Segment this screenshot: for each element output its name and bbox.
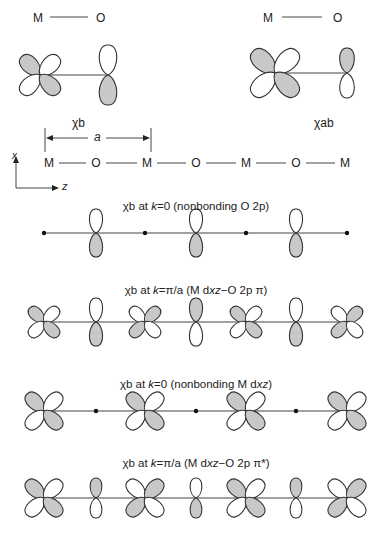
d-orbital-lobe bbox=[227, 497, 247, 517]
p-orbital-lobe bbox=[340, 48, 355, 73]
p-orbital-lobe bbox=[190, 498, 202, 518]
lattice-point-dot bbox=[345, 231, 349, 235]
d-orbital-lobe bbox=[245, 410, 265, 430]
d-orbital-lobe bbox=[43, 410, 63, 430]
p-orbital-lobe bbox=[89, 298, 102, 322]
d-orbital-lobe bbox=[346, 306, 362, 322]
chi-ab-label: χab bbox=[314, 116, 334, 130]
d-orbital-lobe bbox=[144, 497, 164, 517]
d-orbital-lobe bbox=[250, 72, 276, 98]
d-orbital-lobe bbox=[39, 54, 60, 75]
d-orbital-lobe bbox=[346, 479, 366, 499]
caption-xz: xz bbox=[209, 284, 221, 296]
caption-text: =0 (nonbonding O 2p) bbox=[157, 200, 269, 212]
p-orbital-lobe bbox=[90, 478, 102, 498]
d-orbital-lobe bbox=[227, 479, 247, 499]
d-orbital-lobe bbox=[230, 306, 246, 322]
p-orbital-lobe bbox=[289, 322, 302, 346]
p-orbital-lobe bbox=[289, 298, 302, 322]
caption-text: −O 2p π*) bbox=[219, 457, 270, 469]
top-right-o-label: O bbox=[333, 11, 342, 25]
chain-atom-o: O bbox=[91, 156, 100, 170]
d-orbital-lobe bbox=[346, 321, 362, 337]
d-orbital-lobe bbox=[274, 72, 300, 98]
d-orbital-lobe bbox=[346, 497, 366, 517]
d-orbital-lobe bbox=[126, 392, 146, 412]
diagram-canvas bbox=[0, 0, 380, 533]
lattice-point-dot bbox=[42, 231, 46, 235]
caption-text: χb at bbox=[120, 378, 148, 390]
d-orbital-lobe bbox=[43, 306, 59, 322]
d-orbital-lobe bbox=[144, 392, 164, 412]
lattice-point-dot bbox=[143, 231, 147, 235]
d-orbital-lobe bbox=[328, 410, 348, 430]
top-right-m-label: M bbox=[263, 11, 273, 25]
chain-atom-o: O bbox=[191, 156, 200, 170]
d-orbital-lobe bbox=[129, 321, 145, 337]
caption-row-3: χb at k=0 (nonbonding M dxz) bbox=[120, 378, 272, 390]
d-orbital-lobe bbox=[328, 392, 348, 412]
p-orbital-lobe bbox=[289, 233, 302, 257]
d-orbital-lobe bbox=[144, 410, 164, 430]
lattice-point-dot bbox=[294, 409, 298, 413]
caption-text: =0 (nonbonding M d bbox=[154, 378, 257, 390]
chain-atom-m: M bbox=[340, 156, 350, 170]
p-orbital-lobe bbox=[289, 209, 302, 233]
lattice-point-dot bbox=[244, 231, 248, 235]
p-orbital-lobe bbox=[290, 498, 302, 518]
lattice-point-dot bbox=[94, 409, 98, 413]
d-orbital-lobe bbox=[245, 321, 261, 337]
d-orbital-lobe bbox=[19, 54, 40, 75]
d-orbital-lobe bbox=[28, 321, 44, 337]
p-orbital-lobe bbox=[90, 498, 102, 518]
caption-row-4: χb at k=π/a (M dxz−O 2p π*) bbox=[122, 457, 269, 469]
p-orbital-lobe bbox=[99, 75, 117, 105]
p-orbital-lobe bbox=[89, 322, 102, 346]
caption-text: −O 2p π) bbox=[221, 284, 268, 296]
chain-atom-m: M bbox=[44, 156, 54, 170]
caption-text: =π/a (M d bbox=[157, 457, 207, 469]
chain-atom-m: M bbox=[241, 156, 251, 170]
d-orbital-lobe bbox=[245, 306, 261, 322]
d-orbital-lobe bbox=[144, 321, 160, 337]
caption-text: χb at bbox=[125, 284, 153, 296]
p-orbital-lobe bbox=[190, 478, 202, 498]
d-orbital-lobe bbox=[25, 410, 45, 430]
caption-text: =π/a (M d bbox=[159, 284, 209, 296]
top-left-m-label: M bbox=[33, 11, 43, 25]
p-orbital-lobe bbox=[189, 209, 202, 233]
lattice-point-dot bbox=[194, 409, 198, 413]
p-orbital-lobe bbox=[99, 45, 117, 75]
d-orbital-lobe bbox=[19, 74, 40, 95]
axis-z-label: z bbox=[62, 180, 68, 192]
p-orbital-lobe bbox=[189, 298, 202, 322]
caption-row-2: χb at k=π/a (M dxz−O 2p π) bbox=[125, 284, 268, 296]
d-orbital-lobe bbox=[43, 321, 59, 337]
arrow-left-icon bbox=[46, 135, 53, 141]
d-orbital-lobe bbox=[328, 479, 348, 499]
d-orbital-lobe bbox=[245, 497, 265, 517]
d-orbital-lobe bbox=[331, 306, 347, 322]
d-orbital-lobe bbox=[126, 410, 146, 430]
p-orbital-lobe bbox=[340, 73, 355, 98]
d-orbital-lobe bbox=[43, 479, 63, 499]
p-orbital-lobe bbox=[89, 233, 102, 257]
d-orbital-lobe bbox=[346, 392, 366, 412]
d-orbital-lobe bbox=[129, 306, 145, 322]
caption-text: χb at bbox=[122, 457, 150, 469]
caption-xz: xz bbox=[207, 457, 219, 469]
axis-x-label: x bbox=[12, 150, 17, 161]
p-orbital-lobe bbox=[89, 209, 102, 233]
d-orbital-lobe bbox=[28, 306, 44, 322]
d-orbital-lobe bbox=[43, 497, 63, 517]
d-orbital-lobe bbox=[331, 321, 347, 337]
chain-atom-o: O bbox=[291, 156, 300, 170]
d-orbital-lobe bbox=[144, 306, 160, 322]
d-orbital-lobe bbox=[25, 497, 45, 517]
chain-atom-m: M bbox=[142, 156, 152, 170]
chi-b-label: χb bbox=[72, 116, 85, 130]
d-orbital-lobe bbox=[126, 497, 146, 517]
caption-row-1: χb at k=0 (nonbonding O 2p) bbox=[123, 200, 269, 212]
top-left-o-label: O bbox=[96, 11, 105, 25]
caption-text: χb at bbox=[123, 200, 151, 212]
